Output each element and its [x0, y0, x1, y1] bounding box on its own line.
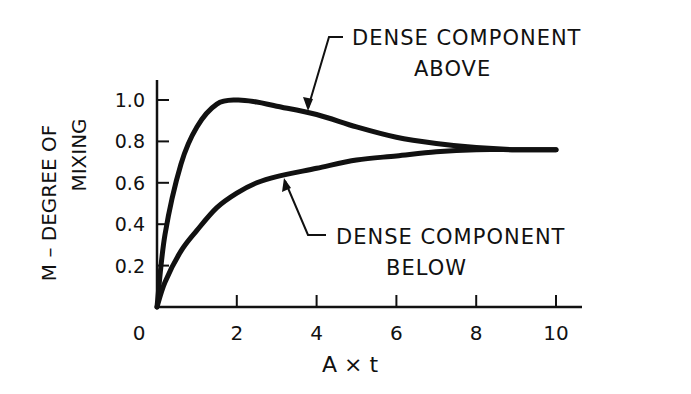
annotation-above-line1: DENSE COMPONENT — [352, 26, 581, 50]
y-tick-label: 0.4 — [115, 213, 145, 235]
curve-dense-above — [157, 100, 556, 307]
y-axis-label-line2: MIXING — [67, 118, 91, 191]
annotation-below-line2: BELOW — [386, 256, 467, 280]
y-axis-label-line1: M – DEGREE OF — [37, 125, 61, 281]
y-tick-label: 0.2 — [115, 255, 145, 277]
chart-figure: M – DEGREE OF MIXING 0.20.40.60.81.0 024… — [0, 0, 691, 394]
x-ticks: 0246810 — [133, 295, 569, 345]
y-tick-label: 1.0 — [115, 89, 145, 111]
annotation-dense-above: DENSE COMPONENT ABOVE — [303, 26, 581, 111]
x-tick-label: 4 — [310, 321, 323, 345]
annotation-above-line2: ABOVE — [414, 57, 491, 81]
x-axis-label: A × t — [322, 352, 378, 377]
x-tick-label: 8 — [470, 321, 483, 345]
y-tick-label: 0.6 — [115, 172, 145, 194]
axes — [156, 80, 582, 308]
y-tick-label: 0.8 — [115, 130, 145, 152]
x-tick-label: 6 — [390, 321, 403, 345]
arrow-head-icon — [303, 97, 313, 111]
annotation-below-line1: DENSE COMPONENT — [336, 225, 565, 249]
annotation-dense-below: DENSE COMPONENT BELOW — [282, 178, 565, 280]
x-tick-label: 0 — [133, 321, 146, 345]
x-tick-label: 10 — [543, 321, 568, 345]
x-tick-label: 2 — [230, 321, 243, 345]
